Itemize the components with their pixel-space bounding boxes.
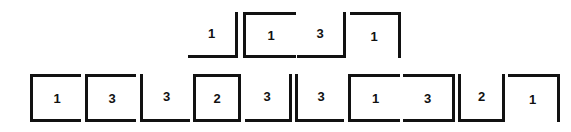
diagram-cell: 1 [350,12,401,58]
diagram-cell: 3 [297,12,346,58]
cell-digit: 1 [188,12,235,55]
cell-digit: 1 [351,77,400,119]
diagram-cell: 3 [403,74,455,122]
diagram-cell: 1 [188,12,238,58]
cell-digit: 2 [461,74,502,119]
diagram-cell: 3 [85,74,136,122]
diagram-cell: 1 [508,74,560,122]
cell-digit: 3 [88,77,136,119]
diagram-cell: 2 [458,74,505,122]
cell-digit: 1 [350,15,398,58]
diagram-canvas: 1131 1332331321 [0,0,571,132]
cell-digit: 3 [143,74,190,119]
diagram-cell: 3 [245,74,292,122]
cell-digit: 1 [246,15,296,55]
cell-digit: 2 [196,77,238,119]
cell-digit: 3 [298,74,344,119]
diagram-cell: 3 [295,74,344,122]
cell-digit: 1 [508,77,557,122]
diagram-cell: 2 [193,74,241,122]
cell-digit: 1 [33,77,81,119]
cell-digit: 3 [245,74,289,119]
diagram-cell: 1 [30,74,81,122]
cell-digit: 3 [403,77,452,119]
diagram-cell: 1 [348,74,400,122]
diagram-cell: 1 [243,12,296,58]
cell-digit: 3 [297,12,343,55]
diagram-cell: 3 [140,74,190,122]
